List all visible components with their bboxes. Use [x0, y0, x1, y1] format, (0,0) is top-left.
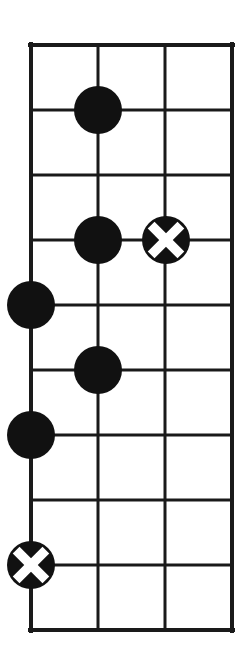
note-marker	[7, 411, 55, 459]
muted-note-marker	[142, 216, 190, 264]
note-marker	[74, 86, 122, 134]
string-lines-group	[31, 44, 232, 631]
marker-dot	[74, 346, 122, 394]
note-marker	[74, 216, 122, 264]
fret-lines-group	[30, 45, 233, 630]
note-marker	[74, 346, 122, 394]
marker-dot	[74, 216, 122, 264]
marker-dot	[7, 281, 55, 329]
fretboard-diagram-canvas	[0, 0, 247, 662]
marker-dot	[7, 411, 55, 459]
muted-note-marker	[7, 541, 55, 589]
marker-dot	[74, 86, 122, 134]
note-marker	[7, 281, 55, 329]
fretboard-diagram	[0, 0, 247, 662]
